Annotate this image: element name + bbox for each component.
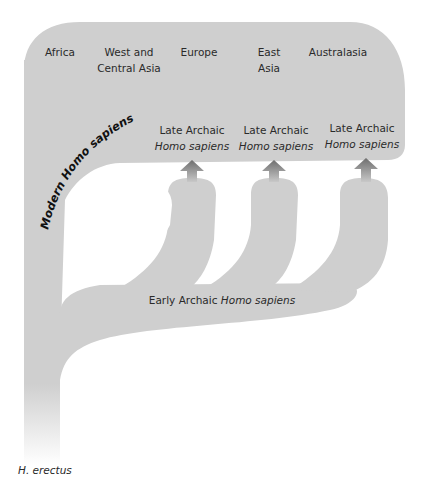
lineage-shape [24,22,405,465]
late-archaic-label: Homo sapiens [239,140,314,152]
late-archaic-label: Late Archaic [243,124,308,136]
lobe-3 [290,178,388,292]
early-archaic-plain: Early Archaic [149,294,221,306]
region-label: East [258,46,281,58]
evolution-diagram: Africa West and Central Asia Europe East… [0,0,427,487]
late-archaic-label: Homo sapiens [325,138,400,150]
region-label: Africa [45,46,75,58]
region-label: Europe [181,46,218,58]
region-label: Central Asia [97,62,161,74]
late-archaic-label: Late Archaic [329,122,394,134]
late-archaic-label: Late Archaic [159,124,224,136]
lobe-2 [205,178,298,288]
h-erectus-label: H. erectus [18,464,72,476]
region-label: Australasia [309,46,367,58]
early-archaic-label: Early Archaic Homo sapiens [149,294,296,306]
early-archaic-italic: Homo sapiens [221,294,296,306]
region-label: West and [105,46,154,58]
region-label: Asia [258,62,280,74]
late-archaic-label: Homo sapiens [155,140,230,152]
